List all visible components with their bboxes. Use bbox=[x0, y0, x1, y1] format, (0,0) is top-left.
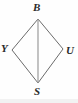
vertex-label-S: S bbox=[34, 86, 40, 97]
vertex-label-B: B bbox=[33, 2, 40, 13]
geometry-figure: B Y U S bbox=[0, 0, 78, 103]
bottom-edge-band bbox=[0, 99, 78, 103]
vertex-label-U: U bbox=[66, 45, 74, 56]
vertex-label-Y: Y bbox=[1, 43, 8, 54]
